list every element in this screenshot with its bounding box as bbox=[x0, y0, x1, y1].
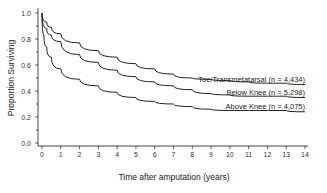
series-lines bbox=[42, 13, 305, 112]
y-tick-label: 0.2 bbox=[21, 114, 31, 121]
series-label: Toe/Transmetatarsal (n = 4,434) bbox=[198, 75, 305, 84]
x-tick-label: 14 bbox=[301, 151, 309, 158]
x-tick-label: 5 bbox=[134, 151, 138, 158]
x-axis-title: Time after amputation (years) bbox=[118, 172, 229, 182]
x-tick-label: 3 bbox=[96, 151, 100, 158]
x-tick-label: 7 bbox=[172, 151, 176, 158]
x-tick-label: 11 bbox=[245, 151, 252, 158]
x-tick-label: 6 bbox=[153, 151, 157, 158]
y-axis: 0.00.20.40.60.81.0 bbox=[21, 8, 38, 147]
x-tick-label: 13 bbox=[282, 151, 290, 158]
y-axis-title: Proportion Surviving bbox=[6, 39, 16, 116]
y-tick-label: 1.0 bbox=[21, 10, 31, 17]
x-tick-label: 8 bbox=[190, 151, 194, 158]
x-tick-label: 12 bbox=[264, 151, 272, 158]
x-tick-label: 2 bbox=[78, 151, 82, 158]
x-tick-label: 10 bbox=[226, 151, 234, 158]
series-line bbox=[42, 13, 305, 98]
x-axis: 01234567891011121314 bbox=[38, 146, 309, 158]
y-tick-label: 0.4 bbox=[21, 88, 31, 95]
y-tick-label: 0.6 bbox=[21, 62, 31, 69]
x-tick-label: 4 bbox=[115, 151, 119, 158]
x-tick-label: 9 bbox=[209, 151, 213, 158]
series-line bbox=[42, 13, 305, 112]
series-label: Above Knee (n = 4,075) bbox=[226, 102, 306, 111]
series-labels: Toe/Transmetatarsal (n = 4,434)Below Kne… bbox=[198, 75, 305, 111]
x-tick-label: 0 bbox=[40, 151, 44, 158]
series-label: Below Knee (n = 5,298) bbox=[226, 88, 305, 97]
survival-chart: 0.00.20.40.60.81.0 01234567891011121314 … bbox=[0, 0, 327, 193]
x-tick-label: 1 bbox=[59, 151, 63, 158]
y-tick-label: 0.8 bbox=[21, 36, 31, 43]
y-tick-label: 0.0 bbox=[21, 140, 31, 147]
